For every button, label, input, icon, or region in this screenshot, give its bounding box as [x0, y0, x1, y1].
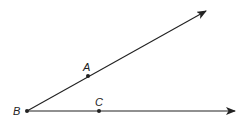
point-a — [86, 74, 90, 78]
label-c: C — [95, 96, 103, 108]
point-b — [25, 109, 29, 113]
label-b: B — [13, 105, 20, 117]
ray-ba — [27, 11, 206, 111]
point-c — [97, 109, 101, 113]
angle-diagram: B A C — [0, 0, 250, 123]
label-a: A — [82, 61, 90, 73]
